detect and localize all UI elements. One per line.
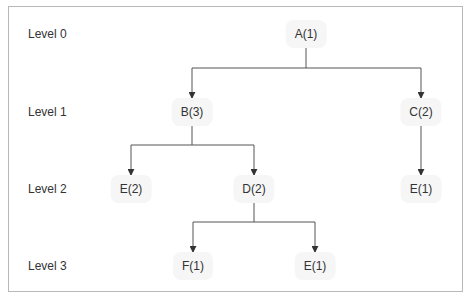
node-a: A(1) <box>286 20 327 48</box>
edge-b-d <box>192 145 254 175</box>
level-label-0: Level 0 <box>28 27 67 41</box>
edge-a-c <box>306 68 421 98</box>
node-c: C(2) <box>400 98 441 126</box>
node-b: B(3) <box>172 98 213 126</box>
node-f: F(1) <box>173 252 213 280</box>
node-d: D(2) <box>233 175 274 203</box>
level-label-2: Level 2 <box>28 182 67 196</box>
edge-b-e2 <box>131 123 192 175</box>
tree-edges <box>0 0 469 300</box>
node-e1-level3: E(1) <box>295 252 336 280</box>
level-label-3: Level 3 <box>28 259 67 273</box>
edge-d-f <box>193 200 254 252</box>
edge-d-e1 <box>254 222 315 252</box>
level-label-1: Level 1 <box>28 105 67 119</box>
node-e2: E(2) <box>111 175 152 203</box>
edge-a-b <box>192 45 306 98</box>
node-e1-level2: E(1) <box>401 175 442 203</box>
